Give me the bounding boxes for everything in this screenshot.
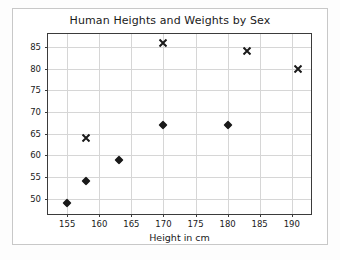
y-axis-tick-label: 55 <box>30 172 41 182</box>
data-point-male[interactable] <box>242 47 251 56</box>
data-point-female[interactable] <box>159 121 168 130</box>
data-point-male[interactable] <box>159 38 168 47</box>
x-axis-tick-label: 160 <box>91 219 107 229</box>
y-gridline <box>48 199 311 200</box>
y-axis-tick <box>45 69 48 70</box>
x-gridline <box>67 34 68 214</box>
data-point-male[interactable] <box>294 64 303 73</box>
y-axis-tick-label: 60 <box>30 150 41 160</box>
y-axis-tick <box>45 177 48 178</box>
page-title: Human Heights and Weights by Sex <box>12 14 328 27</box>
x-gridline <box>292 34 293 214</box>
x-axis-tick-label: 155 <box>59 219 75 229</box>
figure-canvas: Human Heights and Weights by Sex 1551601… <box>0 0 340 260</box>
x-gridline <box>260 34 261 214</box>
x-axis-tick <box>163 214 164 217</box>
x-gridline <box>196 34 197 214</box>
y-gridline <box>48 90 311 91</box>
data-point-female[interactable] <box>63 199 72 208</box>
data-point-female[interactable] <box>114 155 123 164</box>
y-axis-tick-label: 85 <box>30 42 41 52</box>
x-axis-tick-label: 180 <box>219 219 235 229</box>
y-axis-tick-label: 75 <box>30 85 41 95</box>
y-gridline <box>48 155 311 156</box>
x-gridline <box>99 34 100 214</box>
y-axis-tick-label: 80 <box>30 64 41 74</box>
plot-area: 1551601651701751801851905055606570758085 <box>47 33 312 215</box>
y-axis-tick-label: 65 <box>30 129 41 139</box>
y-axis-tick-label: 50 <box>30 194 41 204</box>
x-axis-tick <box>292 214 293 217</box>
x-axis-tick-label: 165 <box>123 219 139 229</box>
y-axis-tick <box>45 199 48 200</box>
x-axis-tick <box>99 214 100 217</box>
data-point-female[interactable] <box>223 121 232 130</box>
x-axis-tick <box>131 214 132 217</box>
y-gridline <box>48 69 311 70</box>
y-axis-tick <box>45 90 48 91</box>
y-gridline <box>48 112 311 113</box>
x-axis-tick <box>196 214 197 217</box>
data-point-male[interactable] <box>82 134 91 143</box>
x-axis-tick-label: 175 <box>187 219 203 229</box>
data-point-female[interactable] <box>82 177 91 186</box>
x-axis-tick <box>67 214 68 217</box>
y-gridline <box>48 47 311 48</box>
x-axis-tick <box>260 214 261 217</box>
x-axis-label: Height in cm <box>47 232 312 243</box>
y-axis-tick <box>45 155 48 156</box>
y-axis-tick <box>45 47 48 48</box>
x-axis-tick-label: 185 <box>252 219 268 229</box>
x-axis-tick-label: 170 <box>155 219 171 229</box>
y-axis-tick <box>45 134 48 135</box>
x-gridline <box>131 34 132 214</box>
x-axis-tick <box>228 214 229 217</box>
y-axis-tick <box>45 112 48 113</box>
x-axis-tick-label: 190 <box>284 219 300 229</box>
y-axis-tick-label: 70 <box>30 107 41 117</box>
